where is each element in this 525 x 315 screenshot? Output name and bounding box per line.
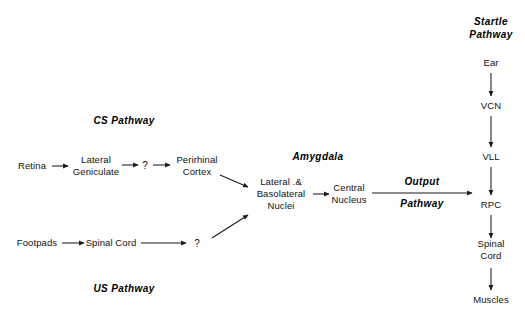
node-spinal-cord-startle: Spinal Cord [477,238,504,262]
node-vll: VLL [482,151,499,163]
node-footpads: Footpads [17,237,57,249]
node-ear: Ear [483,57,498,69]
arrow-q-to-lbn [212,215,248,238]
pathway-diagram: CS Pathway US Pathway Amygdala Startle P… [0,0,525,315]
node-cs-unknown-relay: ? [142,160,148,171]
node-spinal-cord-us: Spinal Cord [86,237,137,249]
section-label-output: Output [404,175,439,188]
section-label-cs-pathway: CS Pathway [93,114,154,127]
node-central-nucleus: Central Nucleus [331,182,366,206]
node-perirhinal-cortex: Perirhinal Cortex [176,154,217,178]
node-retina: Retina [18,160,46,172]
node-us-unknown-relay: ? [194,238,200,249]
node-vcn: VCN [481,100,501,112]
section-label-output-pathway: Pathway [400,197,443,210]
node-rpc: RPC [481,199,501,211]
arrow-perirhinal-to-lbn [220,175,248,187]
node-lateral-geniculate: Lateral Geniculate [73,154,119,178]
section-label-startle-pathway: Startle Pathway [469,15,512,41]
node-lateral-basolateral-nuclei: Lateral .& Basolateral Nuclei [257,176,306,212]
section-label-us-pathway: US Pathway [93,282,154,295]
node-muscles: Muscles [473,294,509,306]
section-label-amygdala: Amygdala [293,150,344,163]
